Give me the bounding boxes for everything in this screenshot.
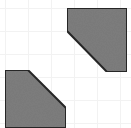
shape-canvas[interactable]: [0, 0, 131, 128]
